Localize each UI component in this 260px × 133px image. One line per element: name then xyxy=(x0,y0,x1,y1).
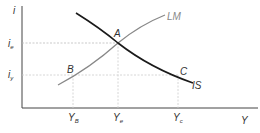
point-c-label: C xyxy=(180,66,188,77)
yb-tick: YB xyxy=(68,112,79,124)
is-curve xyxy=(76,13,193,83)
ye-tick: Ye xyxy=(113,112,124,124)
yc-tick: Yc xyxy=(173,112,183,124)
ie-tick: ie xyxy=(8,38,14,50)
lm-label: LM xyxy=(167,11,182,22)
x-axis-label: Y xyxy=(241,115,249,126)
y-axis-label: i xyxy=(13,5,16,16)
iy-tick: iy xyxy=(8,69,14,81)
is-lm-diagram: i Y LM IS A B C ie iy YB Ye Yc xyxy=(0,0,260,133)
point-a-label: A xyxy=(113,28,121,39)
is-label: IS xyxy=(192,80,202,91)
lm-curve xyxy=(58,15,165,85)
point-b-label: B xyxy=(67,64,74,75)
